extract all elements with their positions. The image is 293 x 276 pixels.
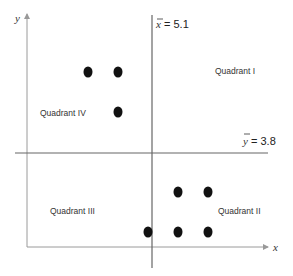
quadrant-iii-label: Quadrant III <box>50 206 95 216</box>
quadrant-iv-label: Quadrant IV <box>40 108 86 118</box>
data-point <box>174 187 183 198</box>
data-point <box>204 227 213 238</box>
data-point <box>114 67 123 78</box>
data-point <box>114 107 123 118</box>
quadrant-ii-label: Quadrant II <box>218 206 261 216</box>
y-bar-value: = 3.8 <box>251 135 276 147</box>
y-axis-label: y <box>14 12 20 24</box>
data-points <box>84 67 213 238</box>
quadrant-i-label: Quadrant I <box>215 66 255 76</box>
data-point <box>144 227 153 238</box>
y-bar-symbol: y <box>242 135 248 147</box>
data-point <box>84 67 93 78</box>
data-point <box>204 187 213 198</box>
data-point <box>174 227 183 238</box>
x-bar-symbol: x <box>155 18 161 30</box>
x-bar-label: x = 5.1 <box>155 18 189 30</box>
quadrant-diagram: y x x = 5.1 y = 3.8 Quadrant I Quadrant … <box>0 0 293 276</box>
y-bar-label: y = 3.8 <box>242 134 276 147</box>
x-axis-label: x <box>272 241 278 253</box>
x-bar-value: = 5.1 <box>164 18 189 30</box>
